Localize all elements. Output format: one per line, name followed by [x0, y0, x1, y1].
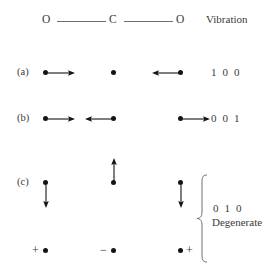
degenerate-brace-icon — [196, 174, 210, 263]
atom-label-oxygen-right: O — [176, 14, 184, 26]
arrow-c-carbon-up — [111, 157, 118, 181]
atom-dot-c-outplane-oxygen-left — [43, 248, 48, 253]
row-label-b: (b) — [17, 113, 29, 124]
atom-label-oxygen-left: O — [42, 14, 50, 26]
row-label-c: (c) — [17, 177, 29, 188]
atom-label-carbon: C — [109, 14, 117, 26]
row-label-a: (a) — [17, 67, 29, 78]
arrow-a-oxygen-right-left — [151, 70, 179, 77]
quantum-numbers-b: 0 0 1 — [211, 113, 241, 124]
arrow-a-oxygen-left-right — [48, 70, 76, 77]
arrow-b-carbon-left — [84, 116, 112, 123]
column-heading-vibration: Vibration — [206, 14, 248, 25]
atom-dot-c-outplane-oxygen-right — [178, 248, 183, 253]
sign-c-oxygen-left-plus: + — [32, 244, 39, 256]
arrow-c-oxygen-right-down — [178, 185, 185, 209]
arrow-b-oxygen-left-right — [48, 116, 76, 123]
quantum-numbers-c: 0 1 0 — [213, 203, 243, 214]
bond-line-right — [124, 21, 173, 22]
bond-line-left — [57, 21, 106, 22]
degenerate-label: Degenerate — [212, 217, 262, 228]
arrow-b-oxygen-right-right — [183, 116, 211, 123]
atom-dot-a-carbon — [111, 70, 116, 75]
atom-dot-c-outplane-carbon — [111, 248, 116, 253]
arrow-c-oxygen-left-down — [43, 185, 50, 209]
quantum-numbers-a: 1 0 0 — [211, 67, 241, 78]
sign-c-carbon-minus: − — [100, 244, 107, 256]
vibration-diagram: O C O Vibration (a) 1 0 0 (b) — [0, 0, 273, 267]
sign-c-oxygen-right-plus: + — [186, 244, 193, 256]
